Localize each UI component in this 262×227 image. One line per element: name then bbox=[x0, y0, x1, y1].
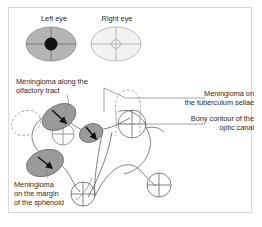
tuberculum-sellae-label: Meningioma on the tuberculum sellae bbox=[160, 89, 254, 107]
olfactory-tract-label: Meningioma along the olfactory tract bbox=[16, 77, 120, 95]
sphenoid-margin-label: Meningioma on the margin of the sphenoid bbox=[14, 180, 74, 208]
right-eye-label: Right eye bbox=[92, 14, 142, 23]
left-eye-label: Left eye bbox=[31, 14, 77, 23]
optic-canal-label: Bony contour of the optic canal bbox=[160, 114, 254, 132]
figure-root: Left eye Right eye Meningioma along the … bbox=[0, 0, 262, 227]
